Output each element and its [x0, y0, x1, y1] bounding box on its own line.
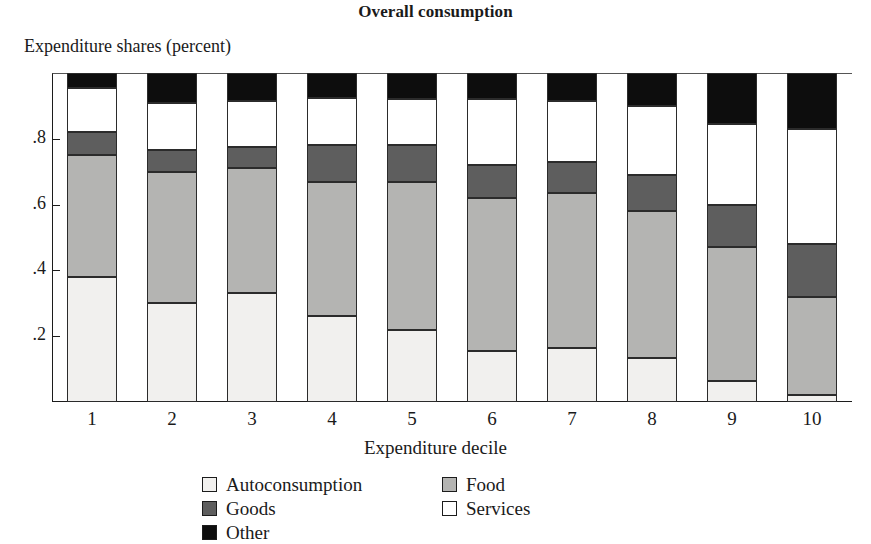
bar-segment-goods[interactable] [227, 147, 277, 168]
legend-row: AutoconsumptionFood [202, 472, 672, 496]
bar-segment-food[interactable] [227, 168, 277, 293]
y-axis-tick-label: .4 [14, 259, 46, 277]
legend-item[interactable]: Services [442, 499, 642, 518]
bar-segment-services[interactable] [707, 124, 757, 205]
bar-segment-services[interactable] [387, 99, 437, 145]
bar-segment-other[interactable] [307, 73, 357, 98]
stacked-bar[interactable] [547, 73, 597, 402]
bar-segment-other[interactable] [147, 73, 197, 103]
bar-segment-autoconsumption[interactable] [147, 303, 197, 402]
bar-segment-other[interactable] [467, 73, 517, 99]
bar-segment-food[interactable] [147, 172, 197, 304]
stacked-bar[interactable] [387, 73, 437, 402]
bar-segment-food[interactable] [547, 193, 597, 348]
bar-segment-food[interactable] [467, 198, 517, 351]
bar-segment-services[interactable] [627, 106, 677, 175]
bar-segment-food[interactable] [387, 182, 437, 330]
legend-swatch-icon [202, 525, 217, 540]
bar-segment-goods[interactable] [787, 244, 837, 297]
bar-segment-autoconsumption[interactable] [707, 381, 757, 402]
stacked-bar[interactable] [147, 73, 197, 402]
legend-item[interactable]: Other [202, 523, 442, 542]
bar-segment-services[interactable] [787, 129, 837, 244]
x-axis-tick-label: 8 [622, 408, 682, 430]
bar-segment-autoconsumption[interactable] [467, 351, 517, 402]
stacked-bars-layer [52, 73, 852, 402]
stacked-bar[interactable] [467, 73, 517, 402]
bar-segment-food[interactable] [67, 155, 117, 277]
legend-label: Services [466, 499, 530, 518]
legend-row: Other [202, 520, 672, 544]
legend-swatch-icon [202, 477, 217, 492]
stacked-bar[interactable] [627, 73, 677, 402]
legend-row: GoodsServices [202, 496, 672, 520]
y-axis-tick-label: .2 [14, 325, 46, 343]
bar-segment-autoconsumption[interactable] [67, 277, 117, 402]
y-axis-tick-label: .8 [14, 128, 46, 146]
bar-segment-other[interactable] [67, 73, 117, 88]
legend-item[interactable]: Goods [202, 499, 442, 518]
bar-segment-goods[interactable] [387, 145, 437, 181]
legend-item[interactable]: Autoconsumption [202, 475, 442, 494]
bar-segment-goods[interactable] [307, 145, 357, 181]
x-axis-tick-label: 2 [142, 408, 202, 430]
x-axis-tick-label: 3 [222, 408, 282, 430]
bar-segment-services[interactable] [67, 88, 117, 132]
legend-label: Other [226, 523, 269, 542]
bar-segment-autoconsumption[interactable] [227, 293, 277, 402]
bar-segment-services[interactable] [147, 103, 197, 151]
legend-item[interactable]: Food [442, 475, 642, 494]
bar-segment-food[interactable] [707, 247, 757, 380]
bar-segment-goods[interactable] [467, 165, 517, 198]
bar-segment-goods[interactable] [707, 205, 757, 248]
bar-segment-autoconsumption[interactable] [307, 316, 357, 402]
x-axis-tick-label: 4 [302, 408, 362, 430]
bar-segment-other[interactable] [707, 73, 757, 124]
bar-segment-autoconsumption[interactable] [547, 348, 597, 402]
x-axis-tick-label: 7 [542, 408, 602, 430]
bar-segment-goods[interactable] [627, 175, 677, 211]
x-axis-tick-label: 5 [382, 408, 442, 430]
chart-container: Overall consumption Expenditure shares (… [0, 0, 871, 544]
y-axis-title: Expenditure shares (percent) [24, 36, 231, 57]
x-axis-title: Expenditure decile [0, 437, 871, 459]
stacked-bar[interactable] [787, 73, 837, 402]
bar-segment-goods[interactable] [147, 150, 197, 171]
bar-segment-other[interactable] [227, 73, 277, 101]
bar-segment-services[interactable] [547, 101, 597, 162]
bar-segment-services[interactable] [227, 101, 277, 147]
bar-segment-other[interactable] [627, 73, 677, 106]
bar-segment-goods[interactable] [547, 162, 597, 193]
bar-segment-goods[interactable] [67, 132, 117, 155]
chart-legend: AutoconsumptionFoodGoodsServicesOther [202, 472, 672, 544]
chart-title: Overall consumption [0, 2, 871, 22]
legend-swatch-icon [442, 501, 457, 516]
legend-label: Goods [226, 499, 276, 518]
x-axis-tick-label: 6 [462, 408, 522, 430]
y-axis-tick-label: .6 [14, 194, 46, 212]
bar-segment-food[interactable] [307, 182, 357, 317]
x-axis-tick-label: 9 [702, 408, 762, 430]
stacked-bar[interactable] [227, 73, 277, 402]
bar-segment-autoconsumption[interactable] [627, 358, 677, 402]
legend-label: Autoconsumption [226, 475, 362, 494]
legend-swatch-icon [202, 501, 217, 516]
legend-swatch-icon [442, 477, 457, 492]
bar-segment-food[interactable] [787, 297, 837, 396]
stacked-bar[interactable] [707, 73, 757, 402]
bar-segment-other[interactable] [787, 73, 837, 129]
stacked-bar[interactable] [67, 73, 117, 402]
bar-segment-services[interactable] [467, 99, 517, 165]
x-axis-tick-label: 1 [62, 408, 122, 430]
bar-segment-other[interactable] [547, 73, 597, 101]
stacked-bar[interactable] [307, 73, 357, 402]
bar-segment-food[interactable] [627, 211, 677, 357]
bar-segment-autoconsumption[interactable] [787, 395, 837, 402]
bar-segment-other[interactable] [387, 73, 437, 99]
x-axis-tick-label: 10 [782, 408, 842, 430]
legend-label: Food [466, 475, 505, 494]
bar-segment-services[interactable] [307, 98, 357, 146]
bar-segment-autoconsumption[interactable] [387, 330, 437, 402]
